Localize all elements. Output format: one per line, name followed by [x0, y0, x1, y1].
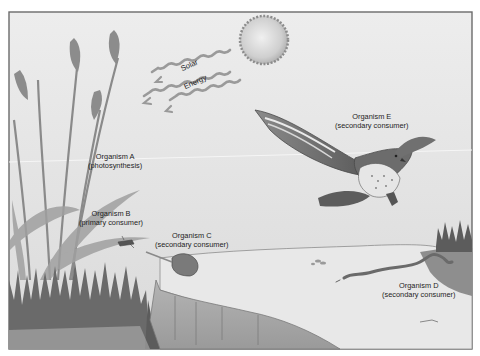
- organism-a-role: (photosynthesis): [88, 162, 142, 171]
- label-organism-b: Organism B (primary consumer): [79, 210, 143, 227]
- label-organism-e: Organism E (secondary consumer): [335, 113, 409, 130]
- organism-e-role: (secondary consumer): [335, 122, 409, 131]
- organism-d-role: (secondary consumer): [382, 291, 456, 300]
- ground: [9, 326, 150, 349]
- organism-b-role: (primary consumer): [79, 219, 143, 228]
- label-organism-d: Organism D (secondary consumer): [382, 282, 456, 299]
- organism-c-role: (secondary consumer): [155, 241, 229, 250]
- label-organism-a: Organism A (photosynthesis): [88, 153, 142, 170]
- label-organism-c: Organism C (secondary consumer): [155, 232, 229, 249]
- sun-icon: [240, 16, 288, 64]
- ecosystem-illustration: [0, 0, 480, 356]
